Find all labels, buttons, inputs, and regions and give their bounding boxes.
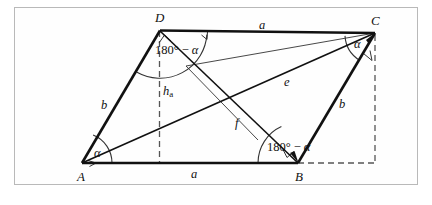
side-label-right-b: b — [339, 98, 345, 111]
vertex-label-C: C — [371, 14, 380, 27]
vertex-label-D: D — [155, 11, 164, 24]
angle-label-D-minus: − — [182, 43, 189, 57]
angle-label-B-minus: − — [294, 140, 301, 154]
thin-helper-line — [186, 33, 375, 66]
height-label-ha: ha — [163, 85, 173, 99]
side-AD-line — [82, 31, 160, 164]
figure-canvas: A B C D a a b b e f ha α α 180°−α 180°−α — [0, 0, 432, 205]
angle-label-A: α — [94, 147, 101, 160]
diagonal-label-f: f — [235, 117, 238, 130]
angle-label-B-alpha: α — [304, 140, 311, 154]
side-label-bottom-a: a — [191, 168, 197, 181]
thin-helper-line-2 — [186, 66, 258, 140]
vertex-label-B: B — [295, 170, 303, 183]
parallelogram-diagram — [0, 0, 432, 205]
side-label-top-a: a — [259, 19, 265, 32]
vertex-label-A: A — [77, 170, 85, 183]
diagonal-e-line — [82, 33, 375, 163]
side-DC-line — [160, 31, 375, 34]
angle-label-C: α — [354, 38, 361, 51]
angle-label-D-value: 180° — [155, 43, 179, 57]
angle-label-B-value: 180° — [267, 140, 291, 154]
diagonal-label-e: e — [284, 76, 290, 89]
side-label-left-b: b — [101, 99, 107, 112]
angle-label-B: 180°−α — [267, 141, 310, 154]
angle-label-D: 180°−α — [155, 44, 198, 57]
height-label-subscript: a — [169, 89, 173, 99]
angle-label-D-alpha: α — [192, 43, 199, 57]
